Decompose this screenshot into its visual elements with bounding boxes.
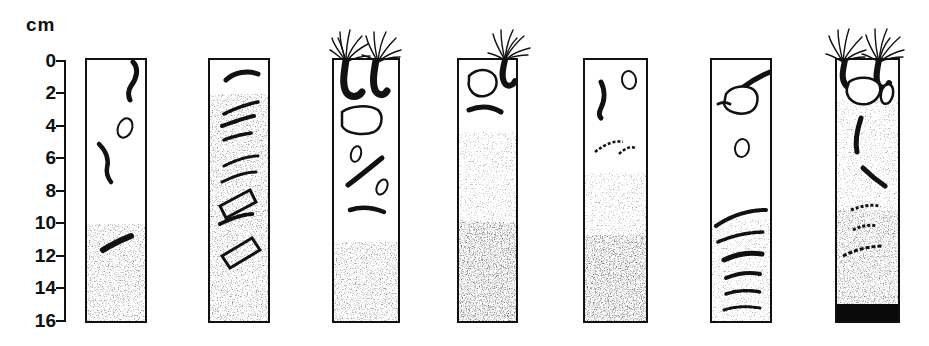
core-2 <box>208 58 270 323</box>
core-2-fauna <box>210 60 270 323</box>
core-6-fauna <box>712 60 772 323</box>
core-5-fauna <box>585 60 648 323</box>
core-3-fauna <box>334 60 400 323</box>
tick-label-4: 4 <box>10 115 56 137</box>
tick-mark-8 <box>56 190 66 192</box>
core-6 <box>710 58 772 323</box>
core-7-tube-worm-plume-right <box>862 24 908 64</box>
tick-mark-4 <box>56 125 66 127</box>
core-1-fauna <box>87 60 147 323</box>
tick-label-14: 14 <box>4 277 56 299</box>
tick-label-10: 10 <box>4 212 56 234</box>
core-5 <box>583 58 648 323</box>
core-3 <box>332 58 400 323</box>
tick-mark-12 <box>56 255 66 257</box>
tick-label-16: 16 <box>4 310 56 332</box>
core-7 <box>835 58 900 323</box>
tick-mark-14 <box>56 287 66 289</box>
tick-label-2: 2 <box>10 82 56 104</box>
tick-label-6: 6 <box>10 147 56 169</box>
tick-mark-2 <box>56 92 66 94</box>
tick-label-8: 8 <box>10 180 56 202</box>
tick-label-12: 12 <box>4 245 56 267</box>
core-1 <box>85 58 147 323</box>
tick-mark-6 <box>56 157 66 159</box>
core-3-tube-worm-plume-right <box>362 26 406 64</box>
tick-mark-0 <box>56 60 66 62</box>
core-4-fauna <box>459 60 518 323</box>
sediment-core-figure: cm 0 2 4 6 8 10 12 14 16 <box>0 0 929 346</box>
core-4 <box>457 58 518 323</box>
core-4-tube-worm-plume <box>487 26 535 62</box>
tick-label-0: 0 <box>10 50 56 72</box>
tick-mark-16 <box>56 320 66 322</box>
core-7-fauna <box>837 60 900 323</box>
tick-mark-10 <box>56 222 66 224</box>
axis-unit-label: cm <box>26 14 55 36</box>
